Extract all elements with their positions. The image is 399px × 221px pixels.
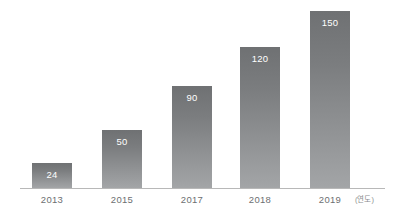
category-label-2019: 2019 bbox=[300, 194, 360, 205]
bar-2018[interactable]: 120 bbox=[240, 47, 280, 188]
bar-value-label: 24 bbox=[32, 170, 72, 180]
category-axis-line bbox=[20, 188, 385, 189]
bar-chart: 24 50 90 120 150 2013 2015 2017 2018 201… bbox=[0, 0, 399, 221]
bar-2015[interactable]: 50 bbox=[102, 130, 142, 188]
category-label-2013: 2013 bbox=[22, 194, 82, 205]
category-label-2015: 2015 bbox=[92, 194, 152, 205]
category-label-2018: 2018 bbox=[230, 194, 290, 205]
bar-value-label: 120 bbox=[240, 54, 280, 64]
bar-value-label: 50 bbox=[102, 137, 142, 147]
bar-2017[interactable]: 90 bbox=[172, 86, 212, 188]
axis-unit-label: (연도) bbox=[355, 195, 399, 204]
bar-2013[interactable]: 24 bbox=[32, 163, 72, 188]
bar-2019[interactable]: 150 bbox=[310, 11, 350, 188]
plot-area: 24 50 90 120 150 2013 2015 2017 2018 201… bbox=[0, 0, 399, 221]
category-label-2017: 2017 bbox=[162, 194, 222, 205]
bar-value-label: 150 bbox=[310, 18, 350, 28]
bar-value-label: 90 bbox=[172, 93, 212, 103]
